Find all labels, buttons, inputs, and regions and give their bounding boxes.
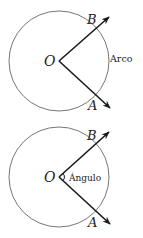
ray-oa xyxy=(59,177,110,224)
label-a: A xyxy=(87,98,97,113)
label-o: O xyxy=(44,169,56,185)
label-b: B xyxy=(86,12,97,27)
ray-oa xyxy=(59,61,110,108)
diagram-canvas: O B A Arco O B A Ángulo xyxy=(0,0,143,238)
arc-diagram: O B A Arco xyxy=(9,11,133,113)
label-a: A xyxy=(87,215,97,230)
angle-annotation: Ángulo xyxy=(68,172,101,183)
ray-ob xyxy=(59,132,109,177)
label-o: O xyxy=(44,53,56,69)
ray-ob xyxy=(59,17,109,61)
label-b: B xyxy=(86,128,97,143)
angle-diagram: O B A Ángulo xyxy=(9,127,110,230)
arc-annotation: Arco xyxy=(109,53,133,64)
angle-arc-icon xyxy=(63,174,64,181)
